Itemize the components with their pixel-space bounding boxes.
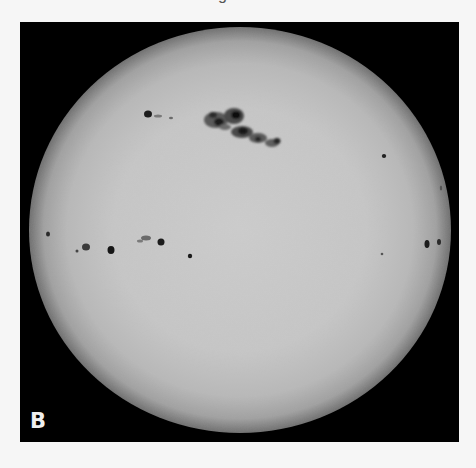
panel-label: B [30, 410, 46, 432]
sun-figure-panel: B [20, 22, 459, 442]
page: g [0, 0, 476, 468]
sunspot-right [382, 154, 386, 158]
clipped-caption-text: g [218, 0, 228, 4]
sun-image [20, 22, 459, 442]
